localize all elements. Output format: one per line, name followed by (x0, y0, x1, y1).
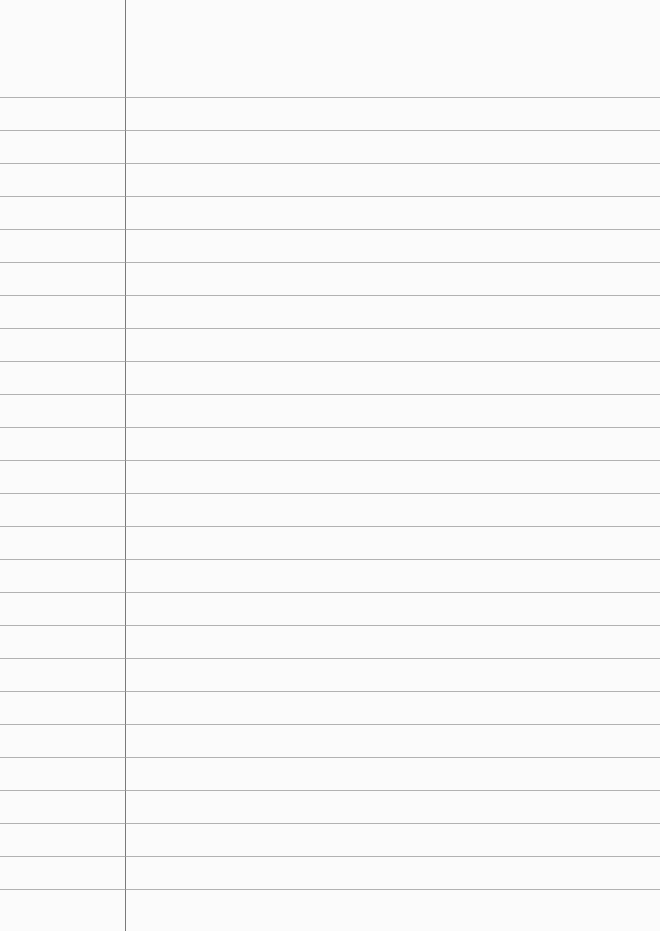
ruled-line (0, 658, 660, 659)
ruled-line (0, 757, 660, 758)
ruled-line (0, 625, 660, 626)
ruled-line (0, 196, 660, 197)
ruled-line (0, 691, 660, 692)
ruled-line (0, 97, 660, 98)
ruled-line (0, 328, 660, 329)
ruled-line (0, 526, 660, 527)
ruled-line (0, 889, 660, 890)
ruled-line (0, 163, 660, 164)
ruled-line (0, 262, 660, 263)
ruled-line (0, 427, 660, 428)
ruled-line (0, 493, 660, 494)
ruled-line (0, 460, 660, 461)
ruled-line (0, 592, 660, 593)
ruled-line (0, 823, 660, 824)
ruled-line (0, 856, 660, 857)
ruled-line (0, 130, 660, 131)
ruled-line (0, 724, 660, 725)
margin-line (125, 0, 126, 931)
ruled-line (0, 295, 660, 296)
lined-paper-sheet (0, 0, 660, 931)
ruled-line (0, 361, 660, 362)
ruled-line (0, 559, 660, 560)
ruled-line (0, 790, 660, 791)
ruled-line (0, 229, 660, 230)
ruled-line (0, 394, 660, 395)
